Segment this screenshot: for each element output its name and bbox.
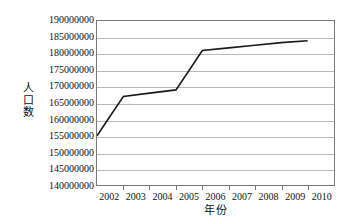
y-axis-tick-labels: 1900000001850000001800000001750000001700… [30, 20, 94, 186]
plot-area [96, 20, 335, 186]
y-axis-tick-label: 160000000 [30, 115, 94, 125]
x-axis-tick [229, 186, 230, 190]
y-axis-tick-label: 175000000 [30, 65, 94, 75]
x-axis-tick-label: 2007 [229, 191, 256, 203]
population-line-series [97, 21, 334, 185]
y-axis-tick-label: 190000000 [30, 15, 94, 25]
line-chart-figure: 人口数 190000000185000000180000000175000000… [0, 0, 351, 224]
x-axis-tick [176, 186, 177, 190]
x-axis-tick [308, 186, 309, 190]
y-axis-tick-label: 180000000 [30, 48, 94, 58]
y-axis-tick-label: 170000000 [30, 81, 94, 91]
x-axis-title: 年份 [96, 204, 335, 217]
x-axis-tick [255, 186, 256, 190]
y-axis-tick-label: 140000000 [30, 181, 94, 191]
x-axis-tick-label: 2005 [176, 191, 203, 203]
x-axis-tick-label: 2010 [308, 191, 335, 203]
x-axis-tick [123, 186, 124, 190]
x-axis-tick [149, 186, 150, 190]
x-axis-tick-label: 2006 [202, 191, 229, 203]
y-axis-tick-label: 155000000 [30, 131, 94, 141]
x-axis-tick-label: 2002 [96, 191, 123, 203]
x-axis-tick-label: 2004 [149, 191, 176, 203]
x-axis-tick-labels: 200220032004200520062007200820092010 [96, 191, 335, 205]
x-axis-tick-label: 2003 [123, 191, 150, 203]
y-axis-tick-label: 150000000 [30, 148, 94, 158]
x-axis-tick-label: 2009 [282, 191, 309, 203]
x-axis-tick [282, 186, 283, 190]
y-axis-tick-label: 145000000 [30, 164, 94, 174]
y-axis-tick-label: 185000000 [30, 32, 94, 42]
x-axis-tick [202, 186, 203, 190]
x-axis-tick-label: 2008 [255, 191, 282, 203]
x-axis-ticks [96, 186, 335, 190]
y-axis-tick-label: 165000000 [30, 98, 94, 108]
